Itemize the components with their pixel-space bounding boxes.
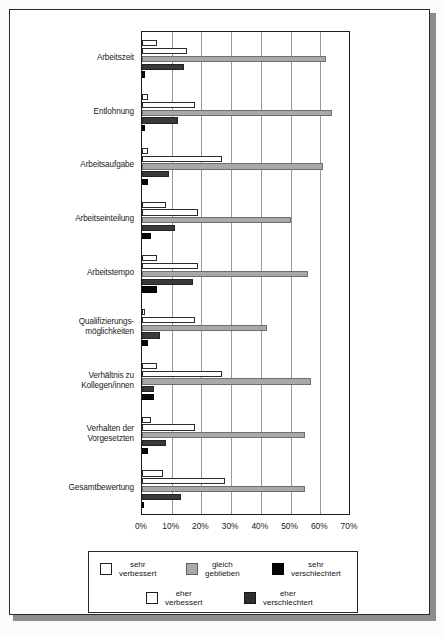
- legend-row-primary: sehr verbessertgleich gebliebensehr vers…: [89, 555, 368, 583]
- bar-sehr-verbessert: [142, 470, 163, 476]
- category-label-line: Arbeitseinteilung: [12, 214, 134, 224]
- bar-eher-verbessert: [142, 317, 195, 323]
- bar-gleich-geblieben: [142, 56, 326, 62]
- bar-eher-verschlechtert: [142, 332, 160, 338]
- bar-group: [142, 408, 349, 462]
- legend-item: eher verschlechtert: [244, 589, 342, 608]
- bar-sehr-verbessert: [142, 202, 166, 208]
- bar-group: [142, 247, 349, 301]
- legend-item: gleich geblieben: [186, 560, 272, 579]
- category-label-line: Qualifizierungs-: [12, 317, 134, 327]
- category-label: Arbeitszeit: [12, 53, 134, 63]
- bar-eher-verschlechtert: [142, 386, 154, 392]
- bar-eher-verbessert: [142, 371, 222, 377]
- x-tick-label: 70%: [329, 521, 369, 531]
- bar-eher-verschlechtert: [142, 171, 169, 177]
- bar-sehr-verschlechtert: [142, 502, 144, 508]
- category-label-line: Vorgesetzten: [12, 434, 134, 444]
- bar-group: [142, 140, 349, 194]
- bar-gleich-geblieben: [142, 217, 291, 223]
- bar-gleich-geblieben: [142, 325, 267, 331]
- legend-item: sehr verbessert: [100, 560, 186, 579]
- bar-eher-verbessert: [142, 478, 225, 484]
- bar-eher-verschlechtert: [142, 225, 175, 231]
- category-label: Arbeitseinteilung: [12, 214, 134, 224]
- plot-area: [141, 31, 350, 515]
- bar-sehr-verbessert: [142, 148, 148, 154]
- legend-label: gleich geblieben: [205, 560, 240, 579]
- bar-group: [142, 301, 349, 355]
- category-label-line: Entlohnung: [12, 107, 134, 117]
- legend-label: eher verschlechtert: [263, 589, 313, 608]
- legend-item: sehr verschlechtert: [272, 560, 358, 579]
- category-label: Arbeitsaufgabe: [12, 160, 134, 170]
- category-label: Gesamtbewertung: [12, 483, 134, 493]
- category-label-line: Arbeitstempo: [12, 268, 134, 278]
- bar-eher-verschlechtert: [142, 440, 166, 446]
- category-label-line: Verhalten der: [12, 424, 134, 434]
- legend-swatch-icon: [100, 563, 112, 575]
- figure-page: 0%10%20%30%40%50%60%70%ArbeitszeitEntloh…: [0, 0, 443, 637]
- legend-row-secondary: eher verbesserteher verschlechtert: [89, 584, 414, 612]
- bar-eher-verbessert: [142, 424, 195, 430]
- bar-sehr-verbessert: [142, 40, 157, 46]
- bar-sehr-verschlechtert: [142, 340, 148, 346]
- category-label-line: möglichkeiten: [12, 327, 134, 337]
- bar-sehr-verschlechtert: [142, 394, 154, 400]
- category-label: Arbeitstempo: [12, 268, 134, 278]
- bar-eher-verschlechtert: [142, 117, 178, 123]
- bar-sehr-verbessert: [142, 417, 151, 423]
- category-label: Qualifizierungs-möglichkeiten: [12, 317, 134, 337]
- bar-group: [142, 355, 349, 409]
- category-label: Entlohnung: [12, 107, 134, 117]
- bar-sehr-verbessert: [142, 94, 148, 100]
- legend-item: eher verbessert: [146, 589, 244, 608]
- legend-label: sehr verschlechtert: [291, 560, 341, 579]
- bar-sehr-verschlechtert: [142, 448, 148, 454]
- bar-group: [142, 32, 349, 86]
- bar-eher-verbessert: [142, 102, 195, 108]
- legend-swatch-icon: [186, 563, 198, 575]
- bar-eher-verbessert: [142, 263, 198, 269]
- bar-sehr-verschlechtert: [142, 179, 148, 185]
- bar-sehr-verschlechtert: [142, 286, 157, 292]
- category-label-line: Arbeitszeit: [12, 53, 134, 63]
- bar-sehr-verschlechtert: [142, 71, 145, 77]
- bar-sehr-verbessert: [142, 309, 145, 315]
- bar-gleich-geblieben: [142, 110, 332, 116]
- chart-legend: sehr verbessertgleich gebliebensehr vers…: [88, 551, 358, 613]
- bar-sehr-verbessert: [142, 363, 157, 369]
- bar-eher-verbessert: [142, 209, 198, 215]
- category-label-line: Arbeitsaufgabe: [12, 160, 134, 170]
- legend-swatch-icon: [244, 592, 256, 604]
- category-label-line: Gesamtbewertung: [12, 483, 134, 493]
- bar-eher-verschlechtert: [142, 279, 193, 285]
- legend-label: sehr verbessert: [119, 560, 156, 579]
- bar-sehr-verschlechtert: [142, 233, 151, 239]
- bar-gleich-geblieben: [142, 163, 323, 169]
- legend-swatch-icon: [272, 563, 284, 575]
- bar-gleich-geblieben: [142, 271, 308, 277]
- category-label-line: Verhältnis zu: [12, 371, 134, 381]
- bar-group: [142, 462, 349, 516]
- bar-sehr-verbessert: [142, 255, 157, 261]
- bar-group: [142, 193, 349, 247]
- bar-eher-verschlechtert: [142, 494, 181, 500]
- bar-group: [142, 86, 349, 140]
- bar-gleich-geblieben: [142, 432, 305, 438]
- legend-swatch-icon: [146, 592, 158, 604]
- bar-gleich-geblieben: [142, 378, 311, 384]
- grouped-bar-chart: 0%10%20%30%40%50%60%70%ArbeitszeitEntloh…: [0, 0, 443, 637]
- bar-eher-verbessert: [142, 48, 187, 54]
- bar-sehr-verschlechtert: [142, 125, 145, 131]
- bar-eher-verbessert: [142, 156, 222, 162]
- category-label-line: Kollegen/innen: [12, 381, 134, 391]
- legend-label: eher verbessert: [165, 589, 202, 608]
- category-label: Verhalten derVorgesetzten: [12, 424, 134, 444]
- bar-eher-verschlechtert: [142, 64, 184, 70]
- bar-gleich-geblieben: [142, 486, 305, 492]
- category-label: Verhältnis zuKollegen/innen: [12, 371, 134, 391]
